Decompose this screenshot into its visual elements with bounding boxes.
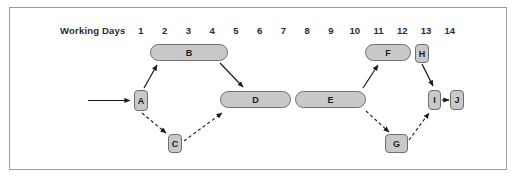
- edge-H-I: [422, 64, 433, 86]
- axis-tick-3: 3: [182, 25, 196, 36]
- axis-tick-9: 9: [324, 25, 338, 36]
- activity-node-h[interactable]: H: [415, 44, 429, 63]
- activity-node-g[interactable]: G: [385, 134, 408, 153]
- edge-B-D: [220, 63, 243, 87]
- activity-network-diagram: Working Days 1234567891011121314 ABCDEFG…: [0, 0, 518, 180]
- edge-G-I: [409, 113, 429, 140]
- activity-node-i[interactable]: I: [428, 90, 441, 110]
- activity-node-c[interactable]: C: [168, 134, 182, 153]
- axis-tick-8: 8: [300, 25, 314, 36]
- axis-tick-5: 5: [229, 25, 243, 36]
- activity-node-e[interactable]: E: [295, 91, 366, 108]
- activity-node-label: A: [138, 96, 145, 106]
- edge-E-F: [363, 65, 378, 88]
- activity-node-label: G: [393, 139, 400, 149]
- axis-tick-4: 4: [205, 25, 219, 36]
- activity-node-label: F: [385, 48, 391, 58]
- activity-node-a[interactable]: A: [134, 90, 148, 111]
- axis-tick-13: 13: [419, 25, 433, 36]
- activity-node-label: C: [172, 139, 179, 149]
- axis-tick-14: 14: [443, 25, 457, 36]
- activity-node-label: D: [252, 95, 259, 105]
- axis-tick-7: 7: [277, 25, 291, 36]
- activity-node-label: J: [454, 95, 459, 105]
- activity-node-f[interactable]: F: [365, 44, 411, 61]
- activity-node-label: E: [327, 95, 333, 105]
- activity-node-label: H: [419, 49, 426, 59]
- edge-C-D: [184, 113, 222, 141]
- axis-tick-1: 1: [134, 25, 148, 36]
- activity-node-j[interactable]: J: [450, 90, 464, 110]
- edge-A-B: [144, 65, 157, 88]
- axis-tick-10: 10: [348, 25, 362, 36]
- axis-tick-12: 12: [395, 25, 409, 36]
- activity-node-label: B: [186, 48, 193, 58]
- axis-tick-6: 6: [253, 25, 267, 36]
- axis-label-working-days: Working Days: [60, 25, 126, 36]
- edge-A-C: [142, 113, 166, 133]
- activity-node-d[interactable]: D: [220, 91, 291, 108]
- axis-tick-2: 2: [158, 25, 172, 36]
- activity-node-b[interactable]: B: [150, 44, 228, 61]
- activity-node-label: I: [433, 95, 436, 105]
- edge-E-G: [366, 111, 389, 132]
- axis-tick-11: 11: [372, 25, 386, 36]
